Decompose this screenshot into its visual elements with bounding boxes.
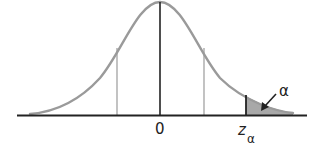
critical-label: z: [237, 121, 247, 139]
critical-subscript: α: [247, 132, 255, 146]
center-label: 0: [155, 120, 165, 138]
normal-curve-diagram: α 0 z α: [0, 0, 316, 160]
alpha-label: α: [279, 82, 289, 100]
bell-curve: [30, 2, 293, 114]
alpha-arrow-shaft: [265, 94, 276, 106]
critical-label-z: z: [237, 121, 247, 139]
